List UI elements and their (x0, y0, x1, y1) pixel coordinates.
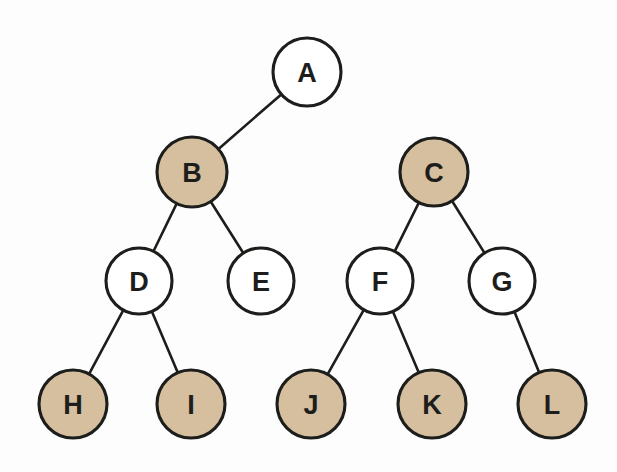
tree-edge-b-e (210, 201, 244, 254)
tree-edge-f-j (327, 309, 364, 375)
tree-node-h[interactable]: H (39, 370, 107, 438)
edge-layer (89, 94, 540, 376)
tree-node-a[interactable]: A (273, 38, 341, 106)
tree-edge-a-b (218, 94, 282, 150)
tree-node-g[interactable]: G (469, 248, 535, 314)
tree-edge-c-f (394, 202, 419, 253)
node-label-d: D (129, 267, 149, 297)
tree-edge-f-k (392, 310, 419, 373)
node-label-l: L (544, 390, 561, 420)
tree-node-e[interactable]: E (228, 248, 294, 314)
node-label-f: F (372, 267, 389, 297)
tree-node-d[interactable]: D (106, 248, 172, 314)
node-label-e: E (252, 267, 270, 297)
tree-node-b[interactable]: B (157, 137, 227, 207)
node-label-j: J (303, 390, 318, 420)
node-label-a: A (297, 58, 317, 88)
node-label-i: I (187, 390, 195, 420)
tree-node-l[interactable]: L (518, 370, 586, 438)
tree-node-j[interactable]: J (277, 370, 345, 438)
tree-edge-d-h (89, 309, 124, 375)
node-label-b: B (182, 158, 202, 188)
tree-edge-g-l (514, 311, 540, 374)
tree-node-f[interactable]: F (347, 248, 413, 314)
tree-edge-b-d (153, 203, 177, 253)
tree-node-k[interactable]: K (398, 370, 466, 438)
tree-node-i[interactable]: I (157, 370, 225, 438)
tree-diagram-canvas: ABCDEFGHIJKL (0, 0, 617, 472)
tree-edge-d-i (151, 310, 178, 373)
node-label-g: G (491, 267, 512, 297)
node-label-k: K (422, 390, 442, 420)
node-label-c: C (424, 158, 444, 188)
binary-tree-graphic: ABCDEFGHIJKL (0, 0, 617, 472)
tree-edge-c-g (451, 200, 485, 254)
node-label-h: H (63, 390, 83, 420)
tree-node-c[interactable]: C (400, 138, 468, 206)
node-layer: ABCDEFGHIJKL (39, 38, 586, 438)
